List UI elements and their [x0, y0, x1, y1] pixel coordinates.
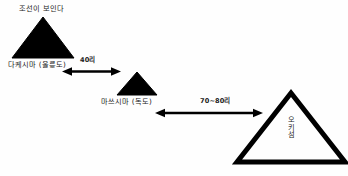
label-distance-takeshima-matsushima: 40리 — [80, 57, 95, 64]
label-korea-visible: 조선이 보인다 — [19, 5, 64, 12]
island-distance-diagram: 조선이 보인다 다케시마 (울릉도) 마쓰시마 (독도) 40리 70~80리 … — [0, 0, 348, 176]
label-takeshima: 다케시마 (울릉도) — [8, 61, 66, 68]
arrow-matsushima-oki — [155, 109, 263, 118]
arrow-takeshima-matsushima — [62, 67, 121, 76]
shape-layer — [0, 0, 348, 176]
label-matsushima: 마쓰시마 (독도) — [101, 98, 152, 105]
triangle-takeshima — [12, 17, 74, 58]
triangle-matsushima — [117, 72, 157, 95]
label-distance-matsushima-oki: 70~80리 — [200, 98, 230, 105]
label-oki: 오키섬 — [287, 116, 294, 139]
